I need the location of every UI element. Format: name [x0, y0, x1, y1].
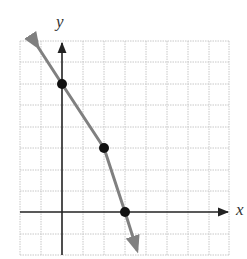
- point-2-3: [99, 143, 109, 153]
- x-axis-label: x: [236, 200, 244, 220]
- y-axis-label: y: [56, 12, 64, 32]
- coordinate-plane: [0, 0, 247, 259]
- grid: [20, 41, 229, 255]
- point-0-6: [57, 79, 67, 89]
- point-3-0: [120, 207, 130, 217]
